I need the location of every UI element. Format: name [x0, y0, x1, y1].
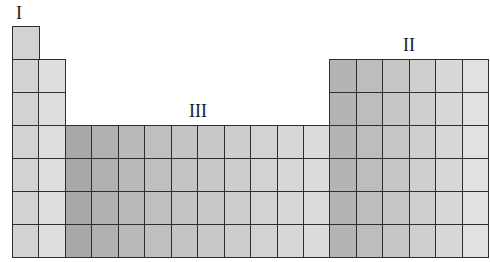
element-cell: [12, 59, 40, 93]
element-cell: [303, 158, 331, 192]
element-cell: [65, 191, 93, 225]
element-cell: [91, 125, 119, 159]
element-cell: [277, 158, 305, 192]
element-cell: [12, 224, 40, 258]
periodic-table-diagram: IIIIII: [0, 0, 490, 262]
element-cell: [197, 125, 225, 159]
element-cell: [12, 125, 40, 159]
element-cell: [356, 59, 384, 93]
element-cell: [171, 191, 199, 225]
element-cell: [118, 224, 146, 258]
element-cell: [91, 191, 119, 225]
element-cell: [462, 191, 490, 225]
element-cell: [382, 92, 410, 126]
element-cell: [409, 224, 437, 258]
element-cell: [435, 92, 463, 126]
element-cell: [197, 158, 225, 192]
element-cell: [224, 191, 252, 225]
element-cell: [12, 191, 40, 225]
element-cell: [409, 158, 437, 192]
element-cell: [250, 125, 278, 159]
element-cell: [171, 224, 199, 258]
element-cell: [197, 191, 225, 225]
region-label-i: I: [16, 4, 22, 22]
element-cell: [144, 125, 172, 159]
element-cell: [118, 191, 146, 225]
element-cell: [356, 224, 384, 258]
region-label-iii: III: [189, 102, 207, 120]
element-cell: [329, 224, 357, 258]
element-cell: [303, 191, 331, 225]
element-cell: [38, 224, 66, 258]
element-cell: [382, 158, 410, 192]
element-cell: [12, 92, 40, 126]
element-cell: [462, 224, 490, 258]
element-cell: [250, 191, 278, 225]
element-cell: [277, 125, 305, 159]
element-cell: [409, 125, 437, 159]
element-cell: [38, 125, 66, 159]
element-cell: [382, 191, 410, 225]
element-cell: [171, 158, 199, 192]
element-cell: [38, 92, 66, 126]
element-cell: [409, 92, 437, 126]
element-cell: [435, 125, 463, 159]
element-cell: [303, 125, 331, 159]
element-cell: [250, 224, 278, 258]
element-cell: [356, 191, 384, 225]
element-cell: [382, 125, 410, 159]
element-cell: [250, 158, 278, 192]
element-cell: [91, 158, 119, 192]
element-cell: [224, 224, 252, 258]
element-cell: [462, 92, 490, 126]
element-cell: [197, 224, 225, 258]
element-cell: [224, 158, 252, 192]
element-cell: [38, 59, 66, 93]
element-cell: [224, 125, 252, 159]
element-cell: [329, 59, 357, 93]
element-cell: [12, 26, 40, 60]
element-cell: [171, 125, 199, 159]
element-cell: [329, 158, 357, 192]
element-cell: [144, 191, 172, 225]
element-cell: [356, 158, 384, 192]
element-cell: [329, 92, 357, 126]
element-cell: [435, 191, 463, 225]
element-cell: [65, 158, 93, 192]
element-cell: [12, 158, 40, 192]
element-cell: [144, 158, 172, 192]
element-cell: [462, 59, 490, 93]
element-cell: [409, 191, 437, 225]
element-cell: [303, 224, 331, 258]
element-cell: [38, 191, 66, 225]
element-cell: [118, 158, 146, 192]
element-cell: [435, 158, 463, 192]
element-cell: [329, 125, 357, 159]
element-cell: [329, 191, 357, 225]
element-cell: [38, 158, 66, 192]
element-cell: [462, 125, 490, 159]
element-cell: [118, 125, 146, 159]
element-cell: [382, 59, 410, 93]
element-cell: [65, 125, 93, 159]
element-cell: [91, 224, 119, 258]
element-cell: [277, 191, 305, 225]
element-cell: [277, 224, 305, 258]
element-cell: [462, 158, 490, 192]
element-cell: [65, 224, 93, 258]
region-label-ii: II: [403, 36, 415, 54]
element-cell: [382, 224, 410, 258]
element-cell: [356, 125, 384, 159]
element-cell: [409, 59, 437, 93]
element-cell: [435, 224, 463, 258]
element-cell: [144, 224, 172, 258]
element-cell: [356, 92, 384, 126]
element-cell: [435, 59, 463, 93]
